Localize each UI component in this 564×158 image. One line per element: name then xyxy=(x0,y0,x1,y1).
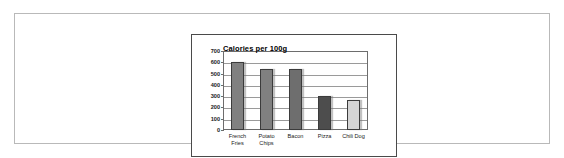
bar-chart: Calories per 100g 7006005004003002001000… xyxy=(192,35,396,156)
y-axis-tick-label: 700 xyxy=(211,48,220,54)
y-axis-tick-label: 300 xyxy=(211,93,220,99)
bar-potato-chips[interactable] xyxy=(260,69,273,131)
x-axis-label-line: Fries xyxy=(223,140,252,147)
bar-slot xyxy=(252,51,281,130)
y-axis-tick-label: 200 xyxy=(211,104,220,110)
x-axis-label-line: Pizza xyxy=(310,133,339,140)
x-axis-label-line: Chili Dog xyxy=(339,133,368,140)
y-axis-tick-label: 100 xyxy=(211,116,220,122)
bar-slot xyxy=(339,51,368,130)
x-axis-tick-label: Chili Dog xyxy=(339,133,368,147)
bars-container xyxy=(223,51,368,130)
bar-french-fries[interactable] xyxy=(231,62,244,130)
x-axis-tick-label: Bacon xyxy=(281,133,310,147)
x-axis-label-line: Bacon xyxy=(281,133,310,140)
chart-title: Calories per 100g xyxy=(223,44,287,53)
bar-pizza[interactable] xyxy=(318,96,331,130)
bar-bacon[interactable] xyxy=(289,69,302,130)
y-axis-tick-label: 500 xyxy=(211,71,220,77)
bar-slot xyxy=(281,51,310,130)
x-axis-tick-label: FrenchFries xyxy=(223,133,252,147)
x-axis-label-line: Potato xyxy=(252,133,281,140)
y-axis-tick-label: 0 xyxy=(217,127,220,133)
x-axis-tick-label: Pizza xyxy=(310,133,339,147)
bar-slot xyxy=(223,51,252,130)
document-frame: Calories per 100g 7006005004003002001000… xyxy=(14,13,550,144)
x-axis-label-line: Chips xyxy=(252,140,281,147)
y-axis-tick-label: 400 xyxy=(211,82,220,88)
bar-slot xyxy=(310,51,339,130)
x-axis: FrenchFriesPotatoChipsBaconPizzaChili Do… xyxy=(223,133,368,147)
x-axis-tick-label: PotatoChips xyxy=(252,133,281,147)
y-axis-tick-label: 600 xyxy=(211,59,220,65)
bar-chili-dog[interactable] xyxy=(347,100,360,130)
x-axis-label-line: French xyxy=(223,133,252,140)
y-axis: 7006005004003002001000 xyxy=(196,48,220,133)
y-axis-tick-mark xyxy=(221,130,224,131)
chart-object-frame[interactable]: Calories per 100g 7006005004003002001000… xyxy=(191,34,397,157)
